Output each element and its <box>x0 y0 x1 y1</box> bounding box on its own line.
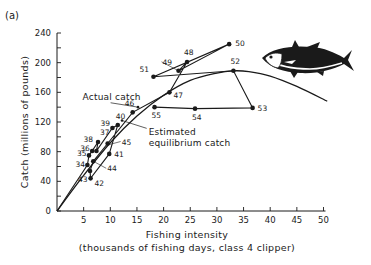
fishing-catch-chart: (a) Catch (millions of pounds) 510152025… <box>0 0 371 265</box>
point-label: 40 <box>116 112 126 121</box>
x-tick-label: 20 <box>158 215 169 225</box>
point-label: 44 <box>107 164 117 173</box>
point-marker <box>88 169 93 174</box>
point-label: 47 <box>173 91 183 100</box>
y-axis-label: Catch (millions of pounds) <box>19 56 30 188</box>
data-point: 50 <box>227 39 245 48</box>
y-tick-label: 0 <box>46 206 51 216</box>
point-label: 50 <box>235 39 245 48</box>
point-label: 49 <box>163 58 173 67</box>
point-label: 41 <box>114 150 124 159</box>
data-point: 36 <box>80 144 94 153</box>
point-label: 55 <box>152 111 162 120</box>
point-label: 37 <box>100 128 110 137</box>
point-marker <box>167 90 172 95</box>
data-point: 53 <box>250 104 267 113</box>
x-tick-label: 5 <box>81 215 86 225</box>
data-point: 47 <box>167 90 183 100</box>
annotation-text: equilibrium catch <box>149 138 231 148</box>
data-point: 42 <box>88 176 104 188</box>
label-leader <box>95 162 106 168</box>
point-marker <box>151 74 156 79</box>
x-tick-label: 25 <box>185 215 196 225</box>
point-marker <box>231 69 236 74</box>
y-tick-label: 40 <box>40 176 51 186</box>
data-point: 48 <box>184 48 194 64</box>
panel-label: (a) <box>5 10 19 21</box>
data-point: 51 <box>139 65 155 79</box>
x-axis-label: Fishing intensity <box>146 229 228 240</box>
arrow-head <box>137 106 140 109</box>
point-label: 51 <box>139 65 149 74</box>
point-marker <box>152 105 157 110</box>
y-tick-label: 240 <box>35 28 51 38</box>
point-marker <box>88 176 93 181</box>
point-marker <box>105 141 110 146</box>
y-tick-label: 80 <box>40 147 51 157</box>
annotation-text: Actual catch <box>83 92 141 102</box>
y-tick-label: 200 <box>35 58 51 68</box>
point-label: 36 <box>80 144 90 153</box>
x-tick-label: 45 <box>291 215 302 225</box>
point-label: 39 <box>100 119 110 128</box>
x-tick-label: 50 <box>318 215 329 225</box>
annotation-text: Estimated <box>149 127 196 137</box>
arrow-head <box>121 119 124 122</box>
point-marker <box>185 60 190 65</box>
x-tick-label: 10 <box>105 215 116 225</box>
data-point: 49 <box>162 58 181 73</box>
y-axis-title: Catch (millions of pounds) <box>19 56 30 188</box>
point-marker <box>91 159 96 164</box>
point-label: 48 <box>184 48 194 57</box>
point-marker <box>227 42 232 47</box>
y-tick-label: 120 <box>35 117 51 127</box>
point-marker <box>110 126 115 131</box>
point-label: 52 <box>230 57 240 66</box>
point-marker <box>193 106 198 111</box>
x-tick-label: 40 <box>265 215 276 225</box>
x-tick-label: 30 <box>211 215 222 225</box>
y-tick-label: 160 <box>35 87 51 97</box>
point-marker <box>94 149 99 154</box>
point-marker <box>107 152 112 157</box>
point-marker <box>87 153 92 158</box>
point-label: 43 <box>78 175 88 184</box>
data-points: 3435363738394041424344454647484950515253… <box>75 39 267 188</box>
data-point: 40 <box>115 112 125 127</box>
point-marker <box>90 149 95 154</box>
point-label: 53 <box>258 104 268 113</box>
data-point: 45 <box>105 138 131 147</box>
point-marker <box>250 106 255 111</box>
point-marker <box>85 163 90 168</box>
point-label: 54 <box>192 113 202 122</box>
x-tick-label: 35 <box>238 215 249 225</box>
x-axis-sublabel: (thousands of fishing days, class 4 clip… <box>79 242 295 253</box>
point-marker <box>96 140 101 145</box>
point-label: 34 <box>75 160 85 169</box>
tuna-fish-icon <box>262 40 354 78</box>
point-label: 42 <box>95 179 105 188</box>
x-tick-label: 15 <box>132 215 143 225</box>
point-marker <box>115 123 120 128</box>
point-marker <box>130 110 135 115</box>
point-label: 45 <box>122 138 132 147</box>
point-label: 38 <box>83 135 93 144</box>
